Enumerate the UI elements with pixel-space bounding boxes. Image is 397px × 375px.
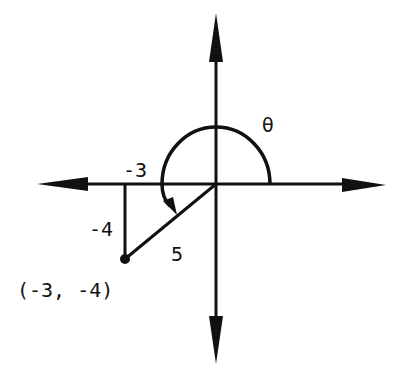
y-axis-up-arrow-icon: [209, 13, 223, 62]
hypotenuse-label: 5: [171, 244, 183, 264]
x-axis-right-arrow-icon: [342, 178, 386, 192]
coordinate-diagram: [0, 0, 397, 375]
angle-label: θ: [262, 116, 274, 135]
x-axis-left-arrow-icon: [37, 177, 88, 191]
y-axis-down-arrow-icon: [209, 316, 223, 364]
horizontal-leg-label: -3: [123, 160, 147, 180]
point-label: (-3, -4): [17, 280, 113, 300]
x-axis: [37, 177, 386, 192]
vertical-leg-label: -4: [89, 219, 113, 239]
point-marker: [120, 254, 130, 264]
